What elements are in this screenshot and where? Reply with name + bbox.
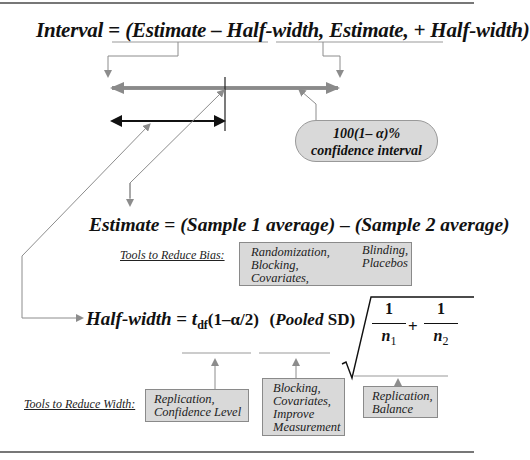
confidence-interval-callout: 100(1– α)% confidence interval bbox=[295, 120, 438, 162]
halfwidth-formula: Half-width = tdf(1–α/2) (Pooled SD) bbox=[86, 308, 355, 333]
width-tool-item: Confidence Level bbox=[154, 406, 248, 419]
bias-tools-col-2: Blinding, Placebos bbox=[362, 244, 408, 270]
halfwidth-equals: = bbox=[172, 308, 192, 329]
bias-tools-label: Tools to Reduce Bias: bbox=[120, 248, 225, 263]
width-tool-item: Balance bbox=[372, 403, 437, 416]
fraction-2: 1 n2 bbox=[424, 300, 458, 349]
interval-lower-term: (Estimate – Half-width, bbox=[125, 18, 324, 42]
interval-lhs: Interval bbox=[36, 18, 103, 42]
bias-tools-box: Randomization, Blocking, Covariates, Bli… bbox=[239, 242, 412, 286]
callout-line-2: confidence interval bbox=[296, 142, 437, 159]
pooled-sd: (Pooled SD) bbox=[270, 310, 355, 329]
estimate-term-2: (Sample 2 average) bbox=[355, 214, 510, 235]
pooled-word: Pooled bbox=[275, 310, 323, 329]
bias-tool-item: Covariates, bbox=[251, 272, 330, 285]
halfwidth-lhs: Half-width bbox=[86, 308, 172, 329]
estimate-equals: = bbox=[159, 214, 180, 235]
bias-tool-item: Placebos bbox=[362, 257, 408, 270]
estimate-minus: – bbox=[335, 214, 355, 235]
interval-upper-term: Estimate, + Half-width) bbox=[324, 18, 530, 42]
fraction-1-subscript: 1 bbox=[390, 334, 396, 348]
t-argument: (1–α/2) bbox=[208, 310, 259, 329]
width-tool-box-replication-balance: Replication, Balance bbox=[363, 386, 438, 418]
callout-line-1: 100(1– α)% bbox=[296, 125, 437, 142]
plus-sign: + bbox=[408, 317, 418, 337]
t-subscript: df bbox=[197, 318, 208, 332]
width-tool-box-replication-confidence: Replication, Confidence Level bbox=[145, 389, 249, 422]
fraction-2-numerator: 1 bbox=[424, 300, 458, 318]
width-tools-label: Tools to Reduce Width: bbox=[24, 397, 135, 412]
fraction-1: 1 n1 bbox=[372, 300, 406, 349]
interval-formula: Interval = (Estimate – Half-width, Estim… bbox=[36, 18, 530, 43]
estimate-formula: Estimate = (Sample 1 average) – (Sample … bbox=[89, 214, 510, 236]
fraction-2-subscript: 2 bbox=[442, 334, 448, 348]
bias-tools-col-1: Randomization, Blocking, Covariates, bbox=[251, 246, 330, 285]
sd-word: SD) bbox=[323, 310, 355, 329]
interval-equals: = bbox=[103, 18, 125, 42]
width-tool-box-blocking-covariates: Blocking, Covariates, Improve Measuremen… bbox=[262, 378, 345, 436]
width-tool-item: Measurement bbox=[273, 421, 344, 434]
fraction-1-numerator: 1 bbox=[372, 300, 406, 318]
estimate-lhs: Estimate bbox=[89, 214, 159, 235]
estimate-term-1: (Sample 1 average) bbox=[180, 214, 335, 235]
